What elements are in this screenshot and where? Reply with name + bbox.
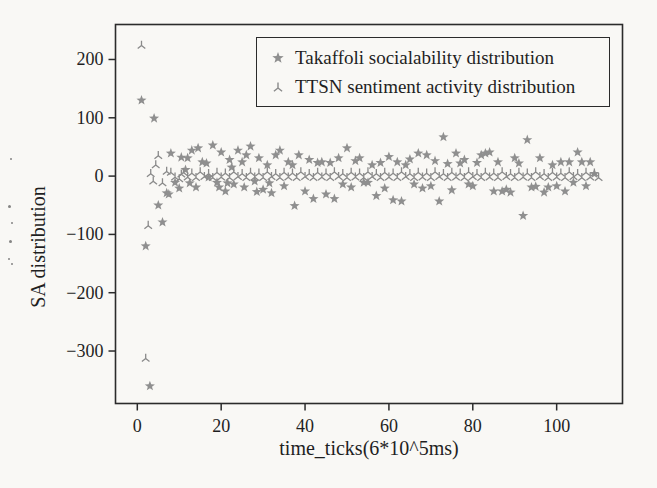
legend-label-takaffoli: Takaffoli socialability distribution [295, 47, 554, 69]
star-data-point [254, 153, 264, 163]
star-data-point [329, 194, 339, 204]
tri-up-data-point [557, 168, 565, 176]
tri-up-data-point [167, 168, 175, 176]
legend-item-ttsn: TTSN sentiment activity distribution [269, 74, 609, 100]
star-data-point [426, 181, 436, 191]
star-marker-icon [269, 49, 287, 67]
star-data-point [434, 196, 444, 206]
star-data-point [334, 153, 344, 163]
star-data-point [237, 157, 247, 167]
tri-up-data-point [222, 168, 230, 176]
star-data-point [227, 162, 237, 172]
tri-up-data-point [381, 168, 389, 176]
tri-up-data-point [347, 168, 355, 176]
star-data-point [342, 143, 352, 153]
tri-up-data-point [373, 169, 381, 177]
tri-up-data-point [255, 168, 263, 176]
star-data-point [447, 185, 457, 195]
star-data-point [137, 95, 147, 105]
star-data-point [346, 182, 356, 192]
star-data-point [181, 164, 191, 174]
tri-up-data-point [305, 169, 313, 177]
star-data-point [241, 150, 251, 160]
star-data-point [535, 153, 545, 163]
star-data-point [493, 157, 503, 167]
tri-up-data-point [297, 167, 305, 175]
star-data-point [145, 381, 155, 391]
scan-speck [11, 222, 13, 224]
y-tick-label: −200 [66, 283, 103, 303]
scanned-figure-page: 2001000−100−200−300020406080100 SA distr… [0, 0, 657, 488]
star-data-point [577, 157, 587, 167]
tri-up-data-point [339, 169, 347, 177]
star-data-point [397, 196, 407, 206]
scan-speck [10, 158, 12, 160]
x-tick-label: 100 [543, 416, 570, 436]
star-data-point [325, 157, 335, 167]
tri-up-data-point [147, 169, 155, 177]
tri-up-data-point [152, 160, 160, 168]
star-data-point [141, 241, 151, 251]
tri-up-data-point [507, 169, 515, 177]
y-axis-title: SA distribution [27, 186, 50, 308]
star-data-point [267, 188, 277, 198]
star-data-point [208, 140, 218, 150]
star-data-point [443, 159, 453, 169]
star-data-point [153, 200, 163, 210]
star-data-point [220, 186, 230, 196]
star-data-point [149, 113, 159, 123]
star-data-point [290, 201, 300, 211]
x-tick-label: 80 [464, 416, 482, 436]
tri-up-data-point [356, 168, 364, 176]
star-data-point [216, 147, 226, 157]
tri-up-data-point [440, 169, 448, 177]
tri-up-data-point [565, 167, 573, 175]
tri-up-data-point [398, 167, 406, 175]
tri-up-data-point [414, 168, 422, 176]
tri-up-data-point [272, 169, 280, 177]
scan-speck [11, 263, 13, 265]
x-tick-label: 0 [133, 416, 142, 436]
tri-up-data-point [473, 169, 481, 177]
tri-up-data-point [149, 177, 157, 185]
star-data-point [581, 181, 591, 191]
y-tick-label: −100 [66, 224, 103, 244]
scan-speck [8, 205, 11, 208]
star-data-point [438, 132, 448, 142]
tri-up-data-point [188, 168, 196, 176]
star-data-point [229, 179, 239, 189]
star-data-point [585, 157, 595, 167]
tri-up-data-point [431, 167, 439, 175]
tri-up-data-point [247, 168, 255, 176]
tri-up-data-point [280, 168, 288, 176]
tri-up-data-point [213, 168, 221, 176]
star-data-point [556, 157, 566, 167]
star-data-point [489, 186, 499, 196]
x-tick-label: 20 [212, 416, 230, 436]
tri-up-data-point [490, 168, 498, 176]
tri-up-data-point [515, 168, 523, 176]
tri-up-data-point [331, 167, 339, 175]
star-data-point [413, 148, 423, 158]
scan-speck [9, 240, 12, 243]
tri-up-data-point [364, 167, 372, 175]
star-data-point [522, 135, 532, 145]
star-data-point [193, 143, 203, 153]
star-data-point [472, 157, 482, 167]
star-data-point [560, 186, 570, 196]
y-tick-label: 0 [95, 166, 104, 186]
star-data-point [294, 150, 304, 160]
tri-up-data-point [524, 168, 532, 176]
tri-up-data-point [289, 168, 297, 176]
star-data-point [233, 145, 243, 155]
legend-item-takaffoli: Takaffoli socialability distribution [269, 45, 609, 71]
x-tick-label: 60 [380, 416, 398, 436]
star-data-point [304, 155, 314, 165]
x-axis-title: time_ticks(6*10^5ms) [279, 437, 458, 460]
tri-up-data-point [574, 169, 582, 177]
star-data-point [191, 182, 201, 192]
star-data-point [422, 150, 432, 160]
star-data-point [573, 147, 583, 157]
star-data-point [308, 194, 318, 204]
star-data-point [157, 217, 167, 227]
